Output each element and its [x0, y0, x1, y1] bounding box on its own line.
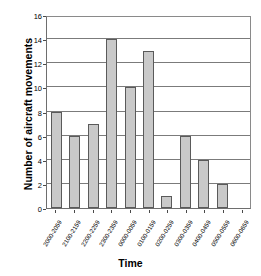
bar	[217, 184, 228, 208]
bar-series	[47, 17, 250, 208]
bar	[88, 124, 99, 208]
x-tick-mark	[130, 210, 131, 213]
x-tick-mark	[167, 210, 168, 213]
y-tick-mark	[43, 185, 46, 186]
y-tick-mark	[43, 209, 46, 210]
bar	[161, 196, 172, 208]
y-tick-label: 10	[20, 84, 42, 93]
x-tick-mark	[55, 210, 56, 213]
bar	[125, 87, 136, 208]
y-tick-mark	[43, 88, 46, 89]
bar-slot	[158, 17, 176, 208]
y-tick-mark	[43, 161, 46, 162]
bar-slot	[65, 17, 83, 208]
x-tick-mark	[242, 210, 243, 213]
y-tick-label: 12	[20, 60, 42, 69]
bar-slot	[47, 17, 65, 208]
x-tick-mark	[204, 210, 205, 213]
y-tick-label: 14	[20, 36, 42, 45]
bar	[69, 136, 80, 208]
x-tick-mark	[223, 210, 224, 213]
y-tick-mark	[43, 64, 46, 65]
bar-slot	[195, 17, 213, 208]
x-tick-mark	[93, 210, 94, 213]
y-tick-label: 6	[20, 132, 42, 141]
y-tick-mark	[43, 16, 46, 17]
y-tick-label: 0	[20, 205, 42, 214]
x-tick-mark	[111, 210, 112, 213]
bar	[143, 51, 154, 208]
bar-slot	[213, 17, 231, 208]
bar-slot	[84, 17, 102, 208]
x-tick-mark	[186, 210, 187, 213]
y-tick-label: 4	[20, 156, 42, 165]
bar	[180, 136, 191, 208]
bar	[51, 112, 62, 209]
bar	[106, 39, 117, 208]
x-tick-mark	[74, 210, 75, 213]
x-tick-mark	[149, 210, 150, 213]
bar-slot	[121, 17, 139, 208]
y-tick-mark	[43, 137, 46, 138]
y-tick-label: 8	[20, 108, 42, 117]
y-tick-label: 2	[20, 180, 42, 189]
bar-slot	[176, 17, 194, 208]
plot-area	[46, 16, 251, 209]
bar-chart: Number of aircraft movements 02468101214…	[0, 0, 261, 276]
bar	[198, 160, 209, 208]
bar-slot	[102, 17, 120, 208]
bar-slot	[139, 17, 157, 208]
bar-slot	[232, 17, 250, 208]
y-tick-mark	[43, 40, 46, 41]
y-tick-mark	[43, 113, 46, 114]
y-tick-label: 16	[20, 12, 42, 21]
x-axis-title: Time	[0, 257, 261, 269]
